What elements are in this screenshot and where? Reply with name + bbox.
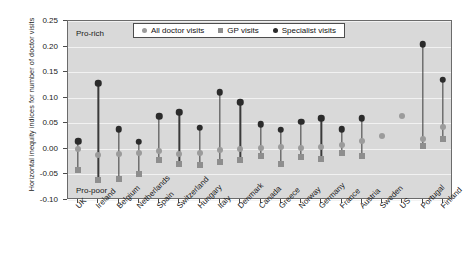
marker-gp-visits [176, 161, 182, 167]
marker-gp-visits [318, 156, 324, 162]
marker-all-doctor-visits [359, 138, 365, 144]
marker-gp-visits [95, 177, 101, 183]
marker-specialist-visits [298, 119, 305, 126]
chart-figure: Horizontal inequity indices for number o… [0, 0, 475, 262]
marker-all-doctor-visits [197, 150, 203, 156]
legend-item: Specialist visits [273, 26, 336, 35]
y-tick-label: -0.05 [20, 169, 58, 178]
stem-line [361, 118, 362, 156]
marker-all-doctor-visits [95, 152, 101, 158]
legend-label: All doctor visits [151, 26, 204, 35]
marker-specialist-visits [257, 121, 264, 128]
annotation-pro-rich: Pro-rich [76, 29, 104, 38]
marker-specialist-visits [338, 126, 345, 133]
legend-label: Specialist visits [282, 26, 336, 35]
marker-all-doctor-visits [318, 144, 324, 150]
legend-square-icon [218, 28, 223, 33]
marker-gp-visits [359, 153, 365, 159]
stem-line [98, 83, 99, 179]
marker-specialist-visits [196, 125, 203, 132]
marker-specialist-visits [75, 138, 82, 145]
plot-area: Pro-rich Pro-poor [67, 20, 452, 199]
marker-all-doctor-visits [237, 146, 243, 152]
gridline [68, 98, 451, 99]
marker-specialist-visits [176, 109, 183, 116]
y-tick-label: 0.10 [20, 92, 58, 101]
legend-item: All doctor visits [142, 26, 204, 35]
marker-gp-visits [237, 157, 243, 163]
y-tick-label: 0.05 [20, 118, 58, 127]
marker-specialist-visits [237, 99, 244, 106]
marker-all-doctor-visits [156, 148, 162, 154]
y-tick-label: -0.10 [20, 195, 58, 204]
stem-line [300, 122, 301, 157]
marker-all-doctor-visits [75, 146, 81, 152]
marker-gp-visits [298, 154, 304, 160]
marker-all-doctor-visits [278, 144, 284, 150]
marker-gp-visits [156, 157, 162, 163]
y-tick-mark [63, 199, 67, 200]
annotation-pro-poor: Pro-poor [76, 186, 107, 195]
marker-gp-visits [197, 162, 203, 168]
chart-legend: All doctor visitsGP visitsSpecialist vis… [133, 23, 345, 38]
marker-all-doctor-visits [217, 147, 223, 153]
legend-label: GP visits [227, 26, 258, 35]
marker-specialist-visits [217, 89, 224, 96]
marker-specialist-visits [318, 115, 325, 122]
marker-gp-visits [258, 153, 264, 159]
legend-circle-icon [142, 28, 147, 33]
stem-line [138, 142, 139, 175]
marker-specialist-visits [419, 41, 426, 48]
marker-gp-visits [339, 150, 345, 156]
marker-all-doctor-visits [116, 151, 122, 157]
y-tick-label: 0.15 [20, 67, 58, 76]
marker-gp-visits [420, 143, 426, 149]
marker-specialist-visits [278, 127, 285, 134]
marker-specialist-visits [95, 80, 102, 87]
legend-circle-icon [273, 28, 278, 33]
marker-gp-visits [440, 136, 446, 142]
marker-all-doctor-visits [399, 113, 405, 119]
gridline [68, 21, 451, 22]
marker-all-doctor-visits [258, 145, 264, 151]
marker-all-doctor-visits [339, 142, 345, 148]
marker-all-doctor-visits [440, 124, 446, 130]
marker-gp-visits [116, 176, 122, 182]
marker-all-doctor-visits [176, 151, 182, 157]
marker-specialist-visits [440, 77, 447, 84]
legend-item: GP visits [218, 26, 258, 35]
marker-all-doctor-visits [379, 133, 385, 139]
y-tick-label: 0.00 [20, 143, 58, 152]
gridline [68, 47, 451, 48]
y-tick-label: 0.20 [20, 41, 58, 50]
y-tick-label: 0.25 [20, 16, 58, 25]
marker-gp-visits [278, 161, 284, 167]
marker-gp-visits [136, 171, 142, 177]
marker-specialist-visits [136, 138, 143, 145]
marker-all-doctor-visits [420, 136, 426, 142]
marker-specialist-visits [359, 115, 366, 122]
marker-specialist-visits [156, 113, 163, 120]
marker-gp-visits [75, 167, 81, 173]
marker-specialist-visits [115, 126, 122, 133]
marker-gp-visits [217, 159, 223, 165]
gridline [68, 174, 451, 175]
stem-line [321, 118, 322, 158]
marker-all-doctor-visits [298, 145, 304, 151]
stem-line [199, 128, 200, 165]
marker-all-doctor-visits [136, 150, 142, 156]
stem-line [422, 44, 423, 146]
gridline [68, 72, 451, 73]
